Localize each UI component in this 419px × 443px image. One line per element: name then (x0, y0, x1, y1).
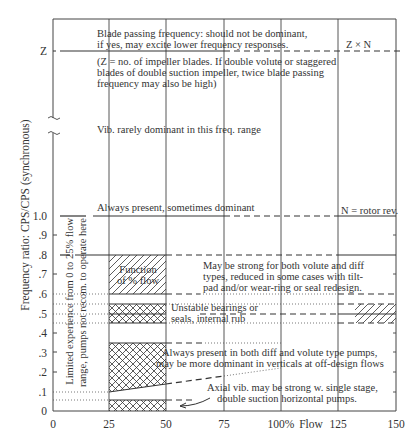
svg-text:25: 25 (103, 418, 115, 430)
svg-text:.4: .4 (38, 327, 47, 339)
svg-text:N = rotor rev.: N = rotor rev. (341, 205, 398, 216)
svg-text:types, reduced in some cases w: types, reduced in some cases with tilt- (203, 271, 364, 282)
svg-text:Limited experience from 0 to 2: Limited experience from 0 to 25% flow (64, 218, 75, 385)
limited-experience-note: Limited experience from 0 to 25% flow ra… (64, 218, 88, 388)
svg-text:of % flow: of % flow (117, 275, 159, 286)
x-axis-title: Flow (299, 418, 323, 430)
svg-text:100%: 100% (268, 418, 295, 430)
svg-text:pad and/or wear-ring or seal r: pad and/or wear-ring or seal redesign. (203, 282, 362, 293)
svg-text:50: 50 (160, 418, 172, 430)
arrow-icon (180, 398, 210, 406)
svg-text:150: 150 (387, 418, 405, 430)
svg-text:Vib. rarely dominant in this f: Vib. rarely dominant in this freq. range (97, 124, 261, 135)
svg-text:.3: .3 (38, 347, 47, 359)
axial-vib-region (109, 400, 166, 411)
svg-text:0: 0 (50, 418, 56, 430)
svg-text:range, pumps not recom. to ope: range, pumps not recom. to operate here (77, 218, 88, 387)
svg-text:.5: .5 (38, 308, 47, 320)
vibration-frequency-diagram: Z 1.0 .9 .8 .7 .6 .5 .4 .3 .2 .1 0 0 25 … (0, 0, 419, 443)
y-axis-title: Frequency ratio: CPS/CPS (synchronous) (19, 119, 32, 311)
svg-text:seals, internal rub: seals, internal rub (171, 313, 245, 324)
y-tick-z: Z (40, 45, 47, 57)
svg-text:125: 125 (329, 418, 347, 430)
svg-text:Axial vib. may be strong w. si: Axial vib. may be strong w. single stage… (207, 382, 378, 393)
svg-text:Function: Function (119, 264, 157, 275)
svg-text:Blade passing frequency: shoul: Blade passing frequency: should not be d… (97, 28, 307, 39)
y-axis-tick-labels: Z 1.0 .9 .8 .7 .6 .5 .4 .3 .2 .1 0 (33, 45, 48, 417)
svg-text:.2: .2 (38, 366, 47, 378)
svg-text:Always present, sometimes domi: Always present, sometimes dominant (97, 202, 255, 213)
svg-text:.9: .9 (38, 229, 47, 241)
svg-text:Z × N: Z × N (346, 39, 372, 50)
svg-text:Always present in both diff an: Always present in both diff and volute t… (162, 347, 377, 358)
svg-text:may be more dominant in vertic: may be more dominant in verticals at off… (156, 358, 384, 369)
svg-text:double suction horizontal pump: double suction horizontal pumps. (217, 393, 357, 404)
svg-text:May be strong for both volute: May be strong for both volute and diff (203, 260, 365, 271)
svg-text:0: 0 (41, 405, 47, 417)
svg-text:.8: .8 (38, 249, 47, 261)
svg-text:frequency may also be high): frequency may also be high) (97, 78, 217, 90)
svg-text:blades of double suction impel: blades of double suction impeller, twice… (97, 67, 325, 78)
x-axis-tick-labels: 0 25 50 75 100% 125 150 Flow (50, 418, 405, 430)
svg-text:1.0: 1.0 (33, 210, 48, 222)
svg-text:.1: .1 (38, 386, 47, 398)
svg-text:.6: .6 (38, 288, 47, 300)
svg-text:Unstable bearings or: Unstable bearings or (171, 302, 258, 313)
svg-text:if yes, may excite lower frequ: if yes, may excite lower frequency respo… (97, 39, 288, 50)
svg-text:75: 75 (218, 418, 230, 430)
axis-break-icon (48, 117, 60, 120)
svg-text:.7: .7 (38, 268, 47, 280)
